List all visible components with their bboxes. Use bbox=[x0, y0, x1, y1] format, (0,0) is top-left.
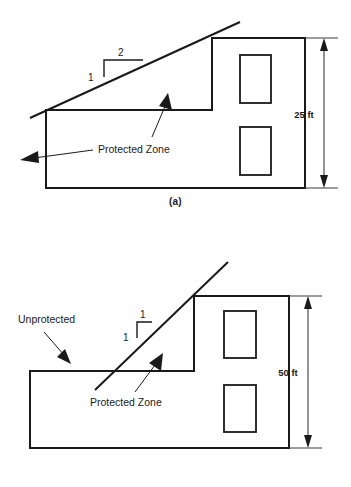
left-arrowhead-a bbox=[20, 151, 39, 163]
protected-zone-arrowhead-a bbox=[159, 93, 172, 110]
slope-line-a bbox=[30, 22, 240, 118]
diagram-b-canvas: 1 1 Unprotected Protected Zone 50 ft bbox=[0, 240, 351, 487]
figure-panel-b: 1 1 Unprotected Protected Zone 50 ft (b) bbox=[0, 240, 351, 487]
protected-zone-arrowhead-b bbox=[149, 353, 163, 371]
figure-caption-a: (a) bbox=[0, 196, 351, 207]
slope-ratio-marker-b bbox=[137, 322, 152, 338]
dim-arrowhead-top-b bbox=[304, 296, 312, 309]
window-lower-b bbox=[224, 385, 256, 432]
figure-sheet: 1 2 Protected Zone 25 ft (a) bbox=[0, 0, 351, 487]
building-outline-a bbox=[46, 38, 305, 188]
dimension-label-b: 50 ft bbox=[278, 367, 298, 378]
dim-arrowhead-top-a bbox=[320, 38, 328, 51]
protected-zone-leader-a bbox=[152, 104, 166, 137]
unprotected-leader-b bbox=[44, 332, 64, 355]
slope-rise-label-b: 1 bbox=[123, 332, 129, 343]
left-leader-a bbox=[34, 150, 93, 158]
slope-run-label-b: 1 bbox=[140, 309, 146, 320]
dimension-label-a: 25 ft bbox=[294, 109, 314, 120]
window-upper-a bbox=[240, 55, 271, 103]
unprotected-label-b: Unprotected bbox=[18, 313, 75, 325]
protected-zone-label-b: Protected Zone bbox=[90, 396, 162, 408]
dim-arrowhead-bottom-b bbox=[304, 435, 312, 448]
slope-run-label-a: 2 bbox=[118, 47, 124, 58]
figure-panel-a: 1 2 Protected Zone 25 ft (a) bbox=[0, 0, 351, 240]
window-upper-b bbox=[224, 311, 256, 358]
slope-rise-label-a: 1 bbox=[88, 72, 94, 83]
unprotected-arrowhead-b bbox=[57, 349, 71, 364]
window-lower-a bbox=[240, 127, 271, 175]
protected-zone-label-a: Protected Zone bbox=[98, 143, 170, 155]
dim-arrowhead-bottom-a bbox=[320, 175, 328, 188]
protected-zone-leader-b bbox=[135, 365, 155, 392]
